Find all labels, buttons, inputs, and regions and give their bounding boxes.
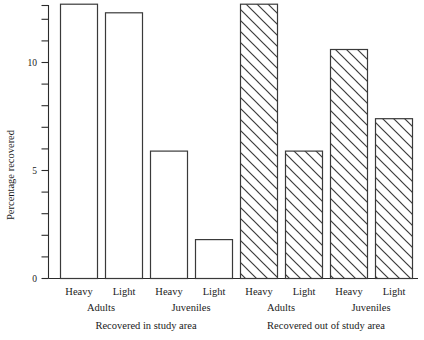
- x-tick-label-bar-4: Heavy: [245, 286, 273, 297]
- bar-juveniles-heavy-in[interactable]: [151, 151, 188, 278]
- y-axis-title: Percentage recovered: [5, 129, 16, 220]
- chart-container: 0 5 10 Percentage recovered Heavy Light …: [0, 0, 424, 340]
- x-tick-label-bar-5: Light: [293, 286, 316, 297]
- x-tick-label-bar-2: Heavy: [155, 286, 183, 297]
- group-label-juveniles-out: Juveniles: [351, 302, 390, 313]
- x-tick-label-bar-6: Heavy: [335, 286, 363, 297]
- panel-caption-out-study-area: Recovered out of study area: [267, 320, 385, 331]
- x-tick-label-bar-1: Light: [113, 286, 136, 297]
- group-label-adults-in: Adults: [87, 302, 115, 313]
- bar-juveniles-light-out[interactable]: [376, 119, 413, 279]
- x-tick-label-bar-3: Light: [203, 286, 226, 297]
- bar-adults-heavy-out[interactable]: [241, 4, 278, 278]
- bar-adults-light-in[interactable]: [106, 13, 143, 279]
- y-axis-minor-ticks: [42, 6, 49, 257]
- bar-juveniles-heavy-out[interactable]: [331, 50, 368, 279]
- bar-adults-light-out[interactable]: [286, 151, 323, 278]
- group-label-juveniles-in: Juveniles: [171, 302, 210, 313]
- y-tick-label-0: 0: [32, 274, 37, 284]
- bar-juveniles-light-in[interactable]: [196, 240, 233, 279]
- y-axis-major-ticks: [42, 63, 49, 279]
- bar-chart-figure: 0 5 10 Percentage recovered Heavy Light …: [0, 0, 424, 340]
- bar-adults-heavy-in[interactable]: [61, 4, 98, 278]
- group-label-adults-out: Adults: [267, 302, 295, 313]
- panel-caption-in-study-area: Recovered in study area: [95, 320, 197, 331]
- x-tick-label-bar-7: Light: [383, 286, 406, 297]
- y-tick-label-10: 10: [28, 58, 38, 68]
- x-tick-label-bar-0: Heavy: [65, 286, 93, 297]
- y-tick-label-5: 5: [32, 166, 37, 176]
